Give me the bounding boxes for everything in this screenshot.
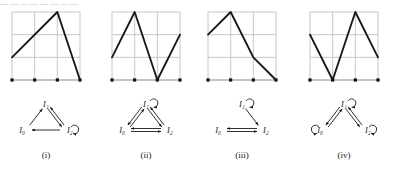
node-label-i1: I₁ xyxy=(142,99,149,109)
panel-2: I₁I₀I₂(ii) xyxy=(110,12,181,160)
state-diagram: I₁I₀I₂ xyxy=(118,99,173,135)
node-label-i0: I₀ xyxy=(214,125,221,135)
axis-dot xyxy=(206,78,209,81)
panel-caption: (iii) xyxy=(235,150,249,160)
chart-curve xyxy=(208,12,276,80)
arrow-line xyxy=(50,107,64,125)
axis-dot xyxy=(229,78,232,81)
panel-caption: (ii) xyxy=(141,150,152,160)
axis-dot xyxy=(252,78,255,81)
axis-dot xyxy=(156,78,159,81)
axis-dot xyxy=(331,78,334,81)
node-label-i2: I₂ xyxy=(66,125,73,135)
axis-dot xyxy=(78,78,81,81)
chart-curve xyxy=(12,12,80,80)
axis-dot xyxy=(56,78,59,81)
axis-dot xyxy=(110,78,113,81)
chart-curve xyxy=(112,12,180,80)
node-label-i1: I₁ xyxy=(42,99,49,109)
panel-caption: (i) xyxy=(42,150,51,160)
chart-curve xyxy=(310,12,378,80)
arrow-line xyxy=(150,107,164,125)
node-label-i2: I₂ xyxy=(364,125,371,135)
axis-dot xyxy=(308,78,311,81)
axis-dot xyxy=(354,78,357,81)
node-label-i0: I₀ xyxy=(18,125,25,135)
arrow-line xyxy=(128,107,142,125)
arrow-line xyxy=(328,109,342,127)
arrow-line xyxy=(346,109,360,127)
axis-dot xyxy=(376,78,379,81)
arrow-line xyxy=(48,109,62,127)
axis-dot xyxy=(10,78,13,81)
state-diagram: I₁I₀I₂ xyxy=(18,99,78,135)
arrow-line xyxy=(130,109,144,127)
panel-3: I₁I₀I₂(iii) xyxy=(206,12,277,160)
axis-dot xyxy=(178,78,181,81)
node-label-i2: I₂ xyxy=(166,125,173,135)
panels-group: I₁I₀I₂(i)I₁I₀I₂(ii)I₁I₀I₂(iii)I₁I₀I₂(iv) xyxy=(10,12,379,160)
panel-1: I₁I₀I₂(i) xyxy=(10,12,81,160)
state-diagram: I₁I₀I₂ xyxy=(214,99,269,135)
node-label-i0: I₀ xyxy=(316,125,323,135)
panel-caption: (iv) xyxy=(338,150,351,160)
self-loop-arrow xyxy=(348,99,356,107)
panel-4: I₁I₀I₂(iv) xyxy=(308,12,379,160)
arrow-line xyxy=(348,107,362,125)
arrow-line xyxy=(148,109,162,127)
self-loop-arrow xyxy=(246,99,254,107)
axis-dot xyxy=(274,78,277,81)
state-diagram: I₁I₀I₂ xyxy=(311,99,376,135)
figure-canvas: I₁I₀I₂(i)I₁I₀I₂(ii)I₁I₀I₂(iii)I₁I₀I₂(iv) xyxy=(0,0,393,171)
node-label-i1: I₁ xyxy=(340,99,347,109)
node-label-i0: I₀ xyxy=(118,125,125,135)
axis-dot xyxy=(33,78,36,81)
arrow-line xyxy=(326,107,340,125)
arrow-line xyxy=(246,109,259,125)
arrow-line xyxy=(30,109,43,125)
node-label-i2: I₂ xyxy=(262,125,269,135)
axis-dot xyxy=(133,78,136,81)
self-loop-arrow xyxy=(150,99,158,107)
node-label-i1: I₁ xyxy=(238,99,245,109)
